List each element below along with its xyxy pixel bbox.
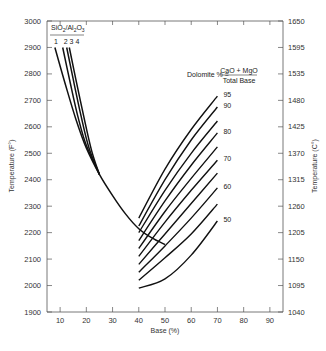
y-right-tick-label: 1040 <box>288 308 305 317</box>
x-tick-label: 60 <box>187 316 195 325</box>
y-right-tick-label: 1260 <box>288 202 305 211</box>
dolomite-curve-label: 50 <box>223 216 231 223</box>
dolomite-curve-label: 80 <box>223 128 231 135</box>
y-tick-label: 2900 <box>24 43 41 52</box>
svg-text:Total Base: Total Base <box>223 77 256 84</box>
y-tick-label: 2600 <box>24 122 41 131</box>
y-right-tick-label: 1205 <box>288 228 305 237</box>
sio2-al2o3-curve <box>55 48 165 245</box>
y-tick-label: 2700 <box>24 96 41 105</box>
right-y-axis: 1040109511501205126013151370142514801535… <box>278 17 305 317</box>
x-tick-label: 10 <box>56 316 64 325</box>
y-right-tick-label: 1480 <box>288 96 305 105</box>
y-right-tick-label: 1095 <box>288 281 305 290</box>
dolomite-curve <box>139 96 218 218</box>
svg-text:1 2 3 4: 1 2 3 4 <box>54 38 79 45</box>
y-right-tick-label: 1595 <box>288 43 305 52</box>
y-right-tick-label: 1315 <box>288 175 305 184</box>
dolomite-curve <box>139 107 218 226</box>
chart: 1900200021002200230024002500260027002800… <box>0 0 326 351</box>
y-tick-label: 3000 <box>24 17 41 26</box>
y-axis-title-right: Temperature (C°) <box>311 139 319 193</box>
x-tick-label: 20 <box>82 316 90 325</box>
svg-text:SiO2/Al2O3: SiO2/Al2O3 <box>51 24 85 33</box>
x-tick-label: 40 <box>135 316 143 325</box>
svg-text:CaO + MgO: CaO + MgO <box>220 67 258 75</box>
y-tick-label: 2500 <box>24 149 41 158</box>
dolomite-curve <box>139 160 218 256</box>
dolomite-curve <box>139 121 218 233</box>
y-tick-label: 2300 <box>24 202 41 211</box>
plot-frame <box>47 21 283 312</box>
y-right-tick-label: 1425 <box>288 122 305 131</box>
y-tick-label: 2200 <box>24 228 41 237</box>
series-group <box>55 48 218 289</box>
y-right-tick-label: 1650 <box>288 17 305 26</box>
sio2-al2o3-legend: SiO2/Al2O3 1 2 3 4 <box>50 24 85 45</box>
y-tick-label: 1900 <box>24 308 41 317</box>
x-tick-label: 90 <box>266 316 274 325</box>
dolomite-curve <box>139 147 218 249</box>
x-tick-label: 50 <box>161 316 169 325</box>
series-labels: 959080706050 <box>223 91 231 223</box>
y-tick-label: 2000 <box>24 281 41 290</box>
y-axis-title-left: Temperature (F°) <box>8 140 16 193</box>
x-tick-label: 80 <box>239 316 247 325</box>
x-axis-title: Base (%) <box>151 327 180 335</box>
x-tick-label: 30 <box>108 316 116 325</box>
dolomite-curve <box>139 188 218 272</box>
y-right-tick-label: 1535 <box>288 69 305 78</box>
dolomite-curve-label: 60 <box>223 183 231 190</box>
y-right-tick-label: 1150 <box>288 255 304 264</box>
dolomite-curve-label: 70 <box>223 155 231 162</box>
y-tick-label: 2400 <box>24 175 41 184</box>
dolomite-curve-label: 90 <box>223 102 231 109</box>
y-right-tick-label: 1370 <box>288 149 305 158</box>
dolomite-formula: Dolomite % = CaO + MgO Total Base <box>187 67 258 84</box>
x-tick-label: 70 <box>213 316 221 325</box>
y-tick-label: 2800 <box>24 69 41 78</box>
left-y-axis: 1900200021002200230024002500260027002800… <box>24 17 52 317</box>
sio2-al2o3-curve <box>63 48 100 175</box>
dolomite-curve-label: 95 <box>223 91 231 98</box>
y-tick-label: 2100 <box>24 255 41 264</box>
